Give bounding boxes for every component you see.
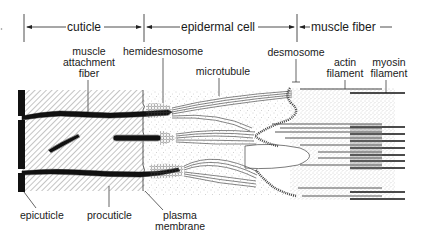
region-label-muscle-fiber: muscle fiber — [311, 20, 376, 34]
region-label-epidermal-cell: epidermal cell — [181, 20, 255, 34]
region-label-cuticle: cuticle — [67, 20, 101, 34]
label-actin-filament-2: filament — [327, 67, 364, 79]
label-microtubule: microtubule — [196, 65, 250, 77]
label-plasma-membrane-2: membrane — [155, 220, 205, 232]
label-desmosome: desmosome — [267, 46, 324, 58]
arrowhead-icon — [26, 25, 32, 29]
overlap-zone — [350, 124, 382, 170]
epicuticle-segment — [18, 173, 25, 192]
epicuticle-segment — [18, 120, 25, 169]
hemidesmosome-plaque — [150, 164, 184, 179]
epicuticle-segment — [18, 90, 25, 116]
stray-dot — [1, 28, 3, 30]
region-header: cuticle epidermal cell muscle fiber — [24, 14, 392, 42]
diagram-svg: cuticle epidermal cell muscle fiber musc… — [0, 0, 421, 241]
label-hemidesmosome: hemidesmosome — [123, 45, 203, 57]
label-myosin-filament-2: filament — [371, 67, 408, 79]
arrowhead-icon — [146, 25, 152, 29]
label-procuticle: procuticle — [87, 209, 132, 221]
diagram: cuticle epidermal cell muscle fiber musc… — [0, 0, 421, 241]
label-epicuticle: epicuticle — [20, 209, 64, 221]
leader-epicuticle — [24, 192, 36, 208]
attachment-fiber-middle — [113, 135, 161, 141]
label-muscle-attachment-fiber-3: fiber — [79, 67, 100, 79]
arrowhead-icon — [299, 25, 305, 29]
arrowhead-icon — [136, 25, 142, 29]
arrowhead-icon — [289, 25, 295, 29]
